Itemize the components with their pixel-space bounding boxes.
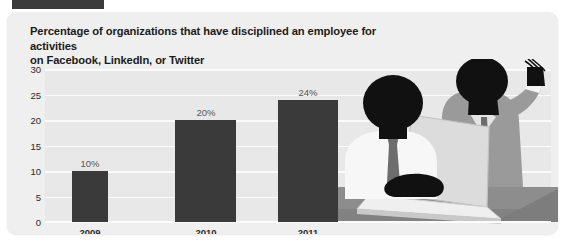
chart-title: Percentage of organizations that have di… — [30, 24, 380, 68]
bar-value-2009: 10% — [80, 158, 99, 169]
bar-value-2010: 20% — [196, 107, 215, 118]
chart-title-line-2: on Facebook, LinkedIn, or Twitter — [30, 54, 204, 66]
y-tick-label: 5 — [7, 191, 41, 202]
y-tick-label: 0 — [7, 217, 41, 228]
y-tick-label: 20 — [7, 115, 41, 126]
bar-2011 — [278, 100, 338, 222]
bar-2009 — [72, 171, 108, 222]
bar-2010 — [175, 120, 236, 222]
y-tick-label: 25 — [7, 89, 41, 100]
y-tick-label: 30 — [7, 64, 41, 75]
chart-card: Percentage of organizations that have di… — [7, 12, 558, 234]
x-tick-label-2009: 2009 — [79, 227, 100, 234]
bar-value-2011: 24% — [298, 87, 317, 98]
y-axis: 30 25 20 15 10 5 0 — [7, 69, 41, 222]
x-tick-label-2011: 2011 — [298, 227, 319, 234]
chart-title-line-1: Percentage of organizations that have di… — [30, 25, 376, 52]
x-tick-label-2010: 2010 — [195, 227, 216, 234]
cropped-header-strip — [12, 0, 104, 9]
y-tick-label: 10 — [7, 166, 41, 177]
y-tick-label: 15 — [7, 140, 41, 151]
